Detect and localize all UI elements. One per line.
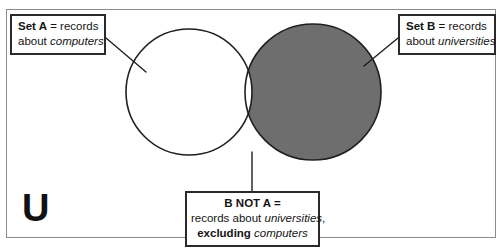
callout-b-not-a-line3-italic: computers [254,227,308,239]
leader-line-set-a-segment [106,38,146,72]
callout-set-a-line1-rest: = records [47,20,98,32]
callout-set-a-line2: about computers [18,34,98,49]
callout-set-a-line2-italic: computers [50,35,104,47]
callout-set-b-line2-italic: universities [438,35,496,47]
callout-set-b-line1-rest: = records [435,20,486,32]
universal-set-symbol: U [22,188,49,228]
callout-set-b: Set B = records about universities [398,14,496,55]
circle-set-a [126,29,252,155]
callout-b-not-a-line3: excluding computers [191,226,314,241]
callout-b-not-a: B NOT A = records about universities, ex… [185,191,320,247]
callout-set-b-line1: Set B = records [406,19,488,34]
callout-b-not-a-term: B NOT A = [224,197,280,209]
callout-b-not-a-line2-plain-a: records about [191,212,265,224]
callout-set-b-term: Set B [406,20,435,32]
callout-b-not-a-line2-plain-b: , [322,212,325,224]
callout-b-not-a-line2: records about universities, [191,211,314,226]
callout-b-not-a-line2-italic: universities [265,212,323,224]
callout-set-a-term: Set A [18,20,47,32]
callout-set-a-line2-plain: about [18,35,50,47]
callout-set-b-line2: about universities [406,34,488,49]
venn-diagram-figure: U Set A = records about computers Set B … [0,0,504,249]
callout-set-b-line2-plain: about [406,35,438,47]
callout-set-a-line1: Set A = records [18,19,98,34]
leader-line-set-b-segment [364,38,398,66]
callout-set-a: Set A = records about computers [10,14,106,55]
callout-b-not-a-line1: B NOT A = [191,196,314,211]
callout-b-not-a-line3-bold: excluding [197,227,251,239]
